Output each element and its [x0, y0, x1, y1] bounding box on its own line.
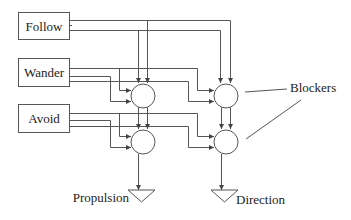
wander-connections [69, 69, 214, 102]
blocker-node-propulsion-lower [131, 130, 155, 154]
wander-label: Wander [24, 65, 65, 80]
blockers-label: Blockers [290, 80, 336, 95]
blockers-leader-upper [245, 89, 287, 92]
direction-label: Direction [236, 192, 286, 207]
blocker-node-direction-upper [214, 84, 238, 108]
blocker-node-direction-lower [214, 130, 238, 154]
diagram-canvas: Follow Wander Avoid Blockers Propulsion … [0, 0, 351, 220]
blocker-node-propulsion-upper [131, 84, 155, 108]
propulsion-label: Propulsion [73, 190, 130, 205]
avoid-label: Avoid [28, 111, 60, 126]
blockers-leader-lower [246, 100, 301, 139]
propulsion-output-triangle [128, 190, 155, 202]
blocker-chain [139, 107, 231, 129]
follow-label: Follow [26, 19, 63, 34]
follow-connections [69, 21, 231, 84]
direction-output-triangle [211, 190, 238, 202]
